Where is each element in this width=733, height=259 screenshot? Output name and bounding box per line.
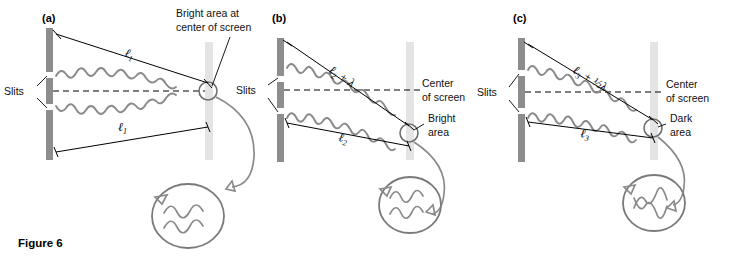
panel-a-inset-arrowhead — [226, 181, 235, 191]
panel-c-inset-arrow — [658, 137, 684, 205]
panel-a-inset-arrow — [216, 97, 254, 187]
panel-a-letter: (a) — [42, 12, 56, 24]
panel-a-barrier — [46, 28, 53, 160]
panel-c-inset — [623, 175, 685, 231]
figure-caption: Figure 6 — [18, 237, 63, 249]
panel-a-slits-leader-lower — [37, 98, 47, 108]
panel-a-result-leader — [212, 37, 230, 86]
panel-c-upper-path-label: ℓ3 + ½λ — [569, 63, 609, 96]
panel-a-slits-label: Slits — [4, 85, 24, 97]
panel-b-letter: (b) — [272, 12, 286, 24]
panel-a-screen — [205, 42, 213, 160]
panel-b-slits-leader-lower — [268, 98, 278, 112]
panel-c-slits-leader-lower — [509, 100, 519, 112]
panel-a-result-label-line2: center of screen — [176, 21, 251, 33]
panel-a-lower-dimension — [54, 122, 210, 157]
panel-b-result-label-line2: area — [428, 126, 449, 138]
panel-c-inset-arrowhead — [667, 201, 676, 211]
panel-b-inset — [379, 177, 441, 233]
panel-b-center-label-line2: of screen — [422, 91, 465, 103]
panel-b-slits-leader-upper — [268, 78, 278, 85]
panel-a-upper-path-label: ℓ1 — [122, 46, 136, 64]
panel-b-center-label-line1: Center — [422, 77, 454, 89]
panel-a-slits-leader-upper — [37, 76, 47, 86]
panel-c-center-label-line1: Center — [666, 78, 698, 90]
panel-b-result-label-line1: Bright — [428, 112, 456, 124]
panel-c-slits-label: Slits — [477, 86, 497, 98]
panel-a-lower-path-label: ℓ1 — [118, 120, 127, 136]
panel-c-slits-leader-upper — [509, 74, 519, 87]
panel-a-lower-wave — [56, 94, 176, 114]
interference-figure-svg: (a) ℓ1 ℓ1 Slits — [0, 0, 733, 259]
panel-b-slits-label: Slits — [236, 84, 256, 96]
panel-a-result-label-line1: Bright area at — [176, 7, 239, 19]
panel-c-result-label-line2: area — [670, 126, 691, 138]
panel-c-result-label-line1: Dark — [670, 112, 693, 124]
panel-c-letter: (c) — [513, 12, 527, 24]
panel-a-upper-wave — [56, 68, 176, 88]
panel-c-lower-dimension — [526, 117, 655, 143]
panel-c-lower-path-label: ℓ3 — [579, 126, 590, 143]
panel-b-lower-path-label: ℓ2 — [337, 130, 349, 147]
panel-a: (a) ℓ1 ℓ1 Slits — [4, 7, 254, 248]
panel-c-screen — [650, 42, 658, 160]
panel-b-barrier — [277, 38, 284, 162]
panel-b: (b) ℓ2 + λ ℓ2 Slits Ce — [236, 12, 465, 233]
panel-c-barrier — [518, 38, 525, 162]
panel-c: (c) ℓ3 + ½λ ℓ3 Slits Center of screen — [477, 12, 709, 231]
panel-b-lower-dimension — [285, 118, 411, 151]
panel-a-inset — [152, 184, 224, 248]
figure-6-diagram: (a) ℓ1 ℓ1 Slits — [0, 0, 733, 259]
panel-c-center-label-line2: of screen — [666, 92, 709, 104]
